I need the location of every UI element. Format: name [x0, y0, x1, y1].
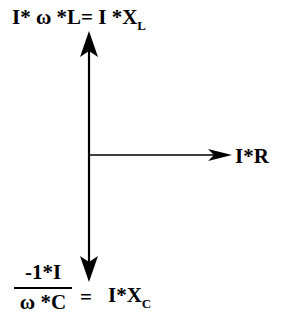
inductive-voltage-label: I* ω *L= I *XL [12, 7, 146, 28]
inductive-subscript: L [137, 18, 146, 33]
fraction-numerator: -1*I [14, 262, 72, 289]
fraction-denominator: ω *C [14, 289, 72, 313]
capacitive-subscript: C [142, 296, 151, 311]
capacitive-fraction: -1*I ω *C [14, 262, 72, 313]
inductive-equals: = [81, 5, 93, 29]
capacitive-voltage-label: I*XC [108, 285, 151, 306]
phasor-diagram: I* ω *L= I *XL I*R -1*I ω *C = I*XC [0, 0, 282, 328]
capacitive-rhs: I*X [108, 283, 142, 307]
resistive-voltage-label: I*R [235, 146, 269, 167]
inductive-rhs: I *X [98, 5, 137, 29]
capacitive-equals: = [80, 285, 92, 310]
inductive-lhs: I* ω *L [12, 5, 81, 29]
